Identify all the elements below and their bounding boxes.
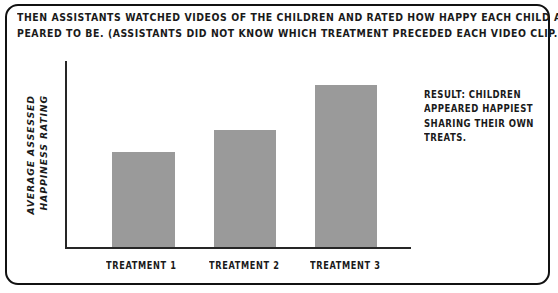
y-axis-label: AVERAGE ASSESSED HAPPINESS RATING bbox=[25, 95, 59, 225]
bar-treatment-1 bbox=[112, 152, 175, 247]
y-axis-line bbox=[65, 61, 67, 249]
result-line-3: SHARING THEIR OWN bbox=[424, 117, 534, 131]
x-axis-tick-label-3: TREATMENT 3 bbox=[310, 260, 381, 271]
bar-treatment-3 bbox=[315, 85, 377, 247]
x-axis-line bbox=[65, 247, 411, 249]
y-axis-label-line-1: AVERAGE ASSESSED bbox=[25, 95, 36, 215]
bar-treatment-2 bbox=[214, 130, 276, 247]
y-axis-label-line-2: HAPPINESS RATING bbox=[38, 95, 49, 211]
result-line-4: TREATS. bbox=[424, 131, 534, 145]
result-line-1: RESULT: CHILDREN bbox=[424, 88, 534, 102]
x-axis-tick-label-2: TREATMENT 2 bbox=[209, 260, 280, 271]
bar-chart: AVERAGE ASSESSED HAPPINESS RATING TREATM… bbox=[0, 0, 558, 293]
result-line-2: APPEARED HAPPIEST bbox=[424, 102, 534, 116]
x-axis-tick-label-1: TREATMENT 1 bbox=[106, 260, 177, 271]
result-caption: RESULT: CHILDREN APPEARED HAPPIEST SHARI… bbox=[424, 88, 542, 146]
